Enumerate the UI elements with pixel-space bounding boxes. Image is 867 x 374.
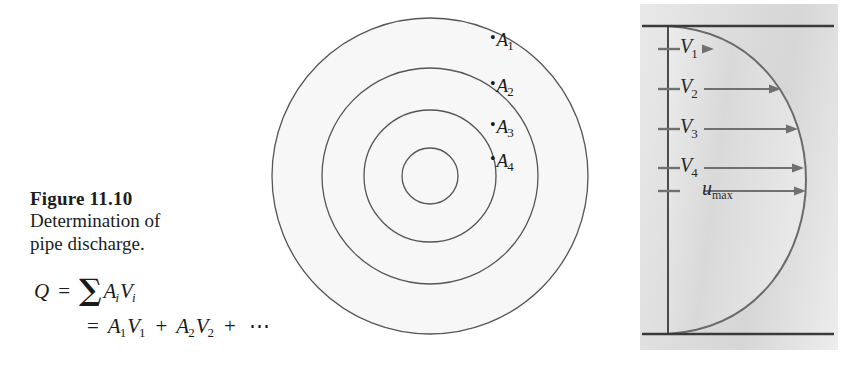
eq2-area-2-subscript: 2: [188, 325, 195, 341]
area-point-marker-icon: •: [490, 116, 496, 133]
area-label-A2: •A2: [490, 75, 515, 97]
figure-number: Figure 11.10: [30, 188, 280, 210]
eq1-equals: =: [58, 279, 70, 304]
velocity-symbol: u: [702, 177, 712, 199]
area-label-A4: •A4: [490, 150, 515, 172]
eq2-velocity-2-subscript: 2: [208, 325, 215, 341]
eq2-velocity-1-subscript: 1: [139, 325, 146, 341]
area-subscript: 1: [507, 38, 514, 53]
eq2-plus-1: +: [156, 314, 168, 339]
figure-caption-line-2: pipe discharge.: [30, 233, 280, 255]
velocity-subscript: 1: [691, 46, 698, 61]
velocity-subscript: 4: [691, 165, 698, 180]
velocity-label-V2: V2: [680, 75, 699, 98]
figure-caption-block: Figure 11.10 Determination of pipe disch…: [30, 188, 280, 255]
area-label-A1: •A1: [490, 29, 515, 51]
velocity-group: [642, 26, 834, 334]
eq2-equals: =: [87, 314, 99, 339]
area-ring-4: [402, 148, 458, 204]
area-subscript: 2: [507, 84, 514, 99]
area-label-A3: •A3: [490, 116, 515, 138]
eq1-lhs: Q: [34, 279, 49, 304]
area-subscript: 3: [507, 125, 514, 140]
circle-group: [272, 18, 588, 334]
figure-caption-line-1: Determination of: [30, 210, 280, 232]
velocity-subscript: 3: [691, 126, 698, 141]
circles-svg: [268, 0, 598, 374]
eq1-area-subscript: i: [115, 290, 119, 306]
eq2-plus-2: +: [224, 314, 236, 339]
summation-icon: ∑: [79, 278, 102, 302]
velocity-profile-region: [668, 26, 806, 334]
velocity-profile-panel: V1V2V3V4umax: [640, 4, 838, 350]
velocity-subscript: 2: [691, 86, 698, 101]
eq2-area-1-subscript: 1: [120, 325, 127, 341]
velocity-label-V3: V3: [680, 115, 699, 138]
concentric-circles-diagram: •A1•A2•A3•A4: [268, 0, 598, 374]
area-point-marker-icon: •: [490, 29, 496, 46]
area-subscript: 4: [507, 159, 514, 174]
velocity-profile-svg: [640, 4, 838, 350]
area-point-marker-icon: •: [490, 150, 496, 167]
eq1-velocity-subscript: i: [132, 290, 136, 306]
velocity-label-umax: umax: [702, 177, 733, 200]
velocity-label-V1: V1: [680, 35, 699, 58]
velocity-label-V4: V4: [680, 154, 699, 177]
area-point-marker-icon: •: [490, 75, 496, 92]
velocity-subscript: max: [712, 188, 733, 202]
